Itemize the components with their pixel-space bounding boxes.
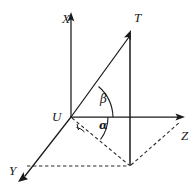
- dashed-foot-to-z: [131, 122, 180, 165]
- axis-z-group: [71, 114, 185, 121]
- axis-x-label: X: [62, 12, 70, 25]
- point-t-label: T: [134, 11, 141, 24]
- angle-alpha-label: α: [99, 120, 107, 131]
- axis-y-group: [18, 117, 71, 182]
- vector-diagram-canvas: X T U Z Y β α: [0, 0, 194, 189]
- angle-beta-label: β: [100, 93, 107, 105]
- axis-y-line: [25, 117, 71, 176]
- axis-z-label: Z: [181, 129, 188, 142]
- diagram-svg: [0, 0, 194, 189]
- angle-arcs: [77, 87, 114, 140]
- right-angle-marker-tick: [77, 124, 79, 130]
- origin-u-label: U: [52, 110, 61, 123]
- axis-x-group: [68, 12, 75, 117]
- axis-y-label: Y: [9, 164, 16, 177]
